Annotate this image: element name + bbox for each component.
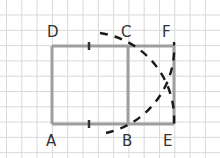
label-e: E <box>163 132 172 150</box>
label-a: A <box>46 132 57 150</box>
golden-rectangle-diagram: A B C D E F <box>0 0 220 158</box>
square-abcd <box>52 46 128 124</box>
grid-background <box>0 0 220 158</box>
label-b: B <box>122 132 132 150</box>
label-f: F <box>162 23 171 41</box>
label-c: C <box>121 23 131 41</box>
arc-from-b-to-f <box>106 42 174 133</box>
point-labels: A B C D E F <box>46 23 172 150</box>
construction-arcs <box>100 33 174 133</box>
label-d: D <box>47 23 59 41</box>
